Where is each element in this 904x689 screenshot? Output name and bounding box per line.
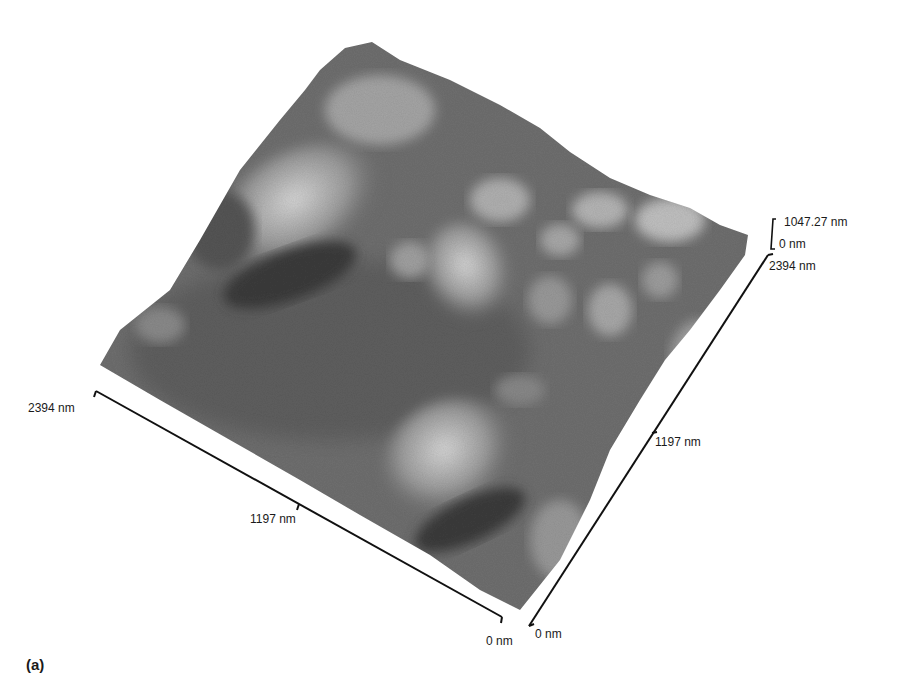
- left-axis-tick-max: [94, 391, 96, 397]
- right-axis-max-label: 2394 nm: [769, 259, 816, 273]
- right-axis-tick-mid: [652, 432, 657, 433]
- left-axis-min-label: 0 nm: [486, 634, 513, 648]
- right-axis-mid-label: 1197 nm: [655, 435, 701, 449]
- z-scale-min-label: 0 nm: [779, 237, 806, 251]
- left-axis-mid-label: 1197 nm: [250, 512, 296, 526]
- z-scale-bar: [771, 219, 776, 249]
- afm-surface-figure: 1047.27 nm 0 nm 2394 nm 1197 nm 0 nm 239…: [0, 0, 904, 689]
- left-axis-tick-mid: [297, 504, 299, 510]
- right-axis-min-label: 0 nm: [535, 627, 562, 641]
- surface-plot: [90, 30, 760, 630]
- left-axis-max-label: 2394 nm: [28, 401, 75, 415]
- z-scale-max-label: 1047.27 nm: [784, 215, 847, 229]
- panel-label: (a): [26, 656, 44, 673]
- left-axis-tick-min: [501, 617, 502, 623]
- right-axis-tick-max: [768, 254, 773, 255]
